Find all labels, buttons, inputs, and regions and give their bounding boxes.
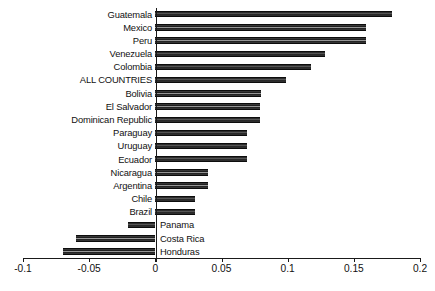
x-axis-tick [222,258,223,262]
x-axis-tick [89,258,90,262]
bar [128,222,156,228]
bar [155,182,208,188]
bar [155,156,246,162]
bar [155,77,286,83]
x-axis-tick-label: 0.1 [281,263,295,275]
bar [155,51,324,57]
bar-row: Chile [0,193,435,206]
bar-row: Honduras [0,245,435,258]
bar-category-label: Chile [131,194,152,204]
bar-row: Venezuela [0,48,435,61]
plot-area: GuatemalaMexicoPeruVenezuelaColombiaALL … [0,0,435,258]
bar [155,196,195,202]
bar [155,130,246,136]
x-axis-tick [354,258,355,262]
bar [155,11,392,17]
bar-category-label: ALL COUNTRIES [80,75,152,85]
bar-category-label: Guatemala [107,10,152,20]
bar-row: Uruguay [0,140,435,153]
x-axis-tick-label: 0 [152,263,158,275]
x-axis-tick [23,258,24,262]
bar-category-label: Paraguay [113,128,152,138]
bar-category-label: Colombia [114,62,152,72]
bar-category-label: Ecuador [118,155,152,165]
x-axis-tick [420,258,421,262]
bar [155,117,260,123]
x-axis-tick [155,258,156,262]
zero-baseline-axis [156,8,157,258]
bar-row: Argentina [0,179,435,192]
x-axis-tick-label: 0.05 [212,263,232,275]
bar [155,90,261,96]
bar-chart: GuatemalaMexicoPeruVenezuelaColombiaALL … [0,0,435,291]
bar-row: Nicaragua [0,166,435,179]
bar-row: Ecuador [0,153,435,166]
bar [155,64,311,70]
bar-category-label: El Salvador [106,102,152,112]
bar [155,209,195,215]
bar-category-label: Uruguay [118,141,152,151]
bar [155,103,260,109]
bar-row: Colombia [0,61,435,74]
bar-category-label: Argentina [113,181,152,191]
bar-category-label: Nicaragua [111,168,152,178]
bar [155,143,246,149]
bar-row: Costa Rica [0,232,435,245]
bar-category-label: Brazil [129,207,152,217]
bar-category-label: Venezuela [110,49,152,59]
x-axis-tick [288,258,289,262]
bar-row: Peru [0,34,435,47]
x-axis-tick-label: 0.2 [413,263,427,275]
bar-row: Guatemala [0,8,435,21]
bar-category-label: Panama [160,220,194,230]
bar-row: Panama [0,219,435,232]
bar-row: ALL COUNTRIES [0,74,435,87]
bar-category-label: Mexico [123,23,152,33]
bar-category-label: Costa Rica [160,234,204,244]
bar-row: Brazil [0,206,435,219]
bar-row: El Salvador [0,100,435,113]
bar-row: Bolivia [0,87,435,100]
bar-row: Mexico [0,21,435,34]
x-axis-tick-label: -0.1 [14,263,32,275]
bar-category-label: Dominican Republic [71,115,152,125]
bar [155,169,208,175]
bar [155,37,365,43]
bar-category-label: Peru [133,36,152,46]
bar-row: Dominican Republic [0,113,435,126]
bar-row: Paraguay [0,127,435,140]
bar [155,24,365,30]
bar [76,235,155,241]
bar-category-label: Bolivia [125,89,152,99]
x-axis-tick-label: 0.15 [344,263,364,275]
x-axis-tick-label: -0.05 [78,263,101,275]
bar-category-label: Honduras [160,247,199,257]
bar [63,248,156,254]
